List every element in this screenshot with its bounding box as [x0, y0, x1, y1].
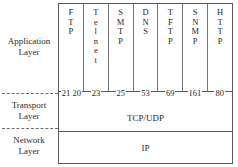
port-number-snmp: 161 — [188, 88, 203, 98]
protocol-column-ftp: F T P — [59, 4, 84, 91]
protocol-name-smtp: S M T P — [117, 8, 125, 46]
layer-label-network-line2: Layer — [0, 146, 58, 157]
transport-layer-protocols: TCP/UDP — [127, 113, 164, 123]
port-number-telnet: 23 — [91, 88, 102, 98]
protocol-column-smtp: S M T P — [109, 4, 134, 91]
transport-layer-band: TCP/UDP — [59, 105, 232, 132]
protocol-name-telnet: T e l n e t — [93, 8, 98, 66]
layer-label-network: Network Layer — [0, 135, 58, 156]
layer-label-application-line1: Application — [0, 36, 58, 47]
protocol-letter: P — [217, 37, 223, 47]
layer-label-transport-line2: Layer — [0, 111, 58, 122]
port-number-smtp: 25 — [116, 88, 127, 98]
port-numbers-row: 21 20 23 25 53 69 161 80 — [59, 91, 232, 106]
layer-label-network-line1: Network — [0, 135, 58, 146]
protocol-letter: S — [142, 27, 148, 37]
protocol-column-tftp: T F T P — [158, 4, 183, 91]
port-cell-smtp: 25 — [108, 92, 133, 106]
network-layer-band: IP — [59, 132, 232, 163]
protocol-name-tftp: T F T P — [168, 8, 173, 46]
port-cell-ftp: 21 20 — [59, 92, 84, 106]
layer-label-transport-line1: Transport — [0, 100, 58, 111]
dashed-divider-application-transport — [2, 93, 58, 94]
layer-label-application-line2: Layer — [0, 47, 58, 58]
port-number-http: 80 — [214, 88, 225, 98]
protocol-name-dns: D N S — [142, 8, 148, 37]
layer-label-transport: Transport Layer — [0, 100, 58, 121]
protocol-stack-diagram: Application Layer Transport Layer Networ… — [0, 0, 238, 167]
port-number-dns: 53 — [140, 88, 151, 98]
port-number-ftp: 21 20 — [61, 88, 82, 98]
protocol-stack-box: F T P T e l n e t S M T — [58, 3, 233, 164]
port-cell-snmp: 161 — [183, 92, 208, 106]
protocol-letter: P — [117, 37, 125, 47]
protocol-letter: P — [191, 37, 199, 47]
protocol-letter: P — [68, 27, 73, 37]
protocol-name-snmp: S N M P — [191, 8, 199, 46]
port-cell-telnet: 23 — [84, 92, 109, 106]
network-layer-protocol: IP — [141, 143, 149, 153]
protocol-name-ftp: F T P — [68, 8, 73, 37]
protocol-column-snmp: S N M P — [183, 4, 208, 91]
dashed-divider-transport-network — [2, 128, 58, 129]
layer-label-application: Application Layer — [0, 36, 58, 57]
protocol-letter: t — [93, 56, 98, 66]
protocol-name-http: H T T P — [217, 8, 223, 46]
port-cell-dns: 53 — [133, 92, 158, 106]
protocol-letter: P — [168, 37, 173, 47]
protocol-column-http: H T T P — [208, 4, 232, 91]
port-cell-tftp: 69 — [158, 92, 183, 106]
port-number-tftp: 69 — [165, 88, 176, 98]
protocol-column-telnet: T e l n e t — [84, 4, 109, 91]
port-cell-http: 80 — [207, 92, 232, 106]
protocol-column-dns: D N S — [134, 4, 159, 91]
application-layer-columns: F T P T e l n e t S M T — [59, 4, 232, 91]
